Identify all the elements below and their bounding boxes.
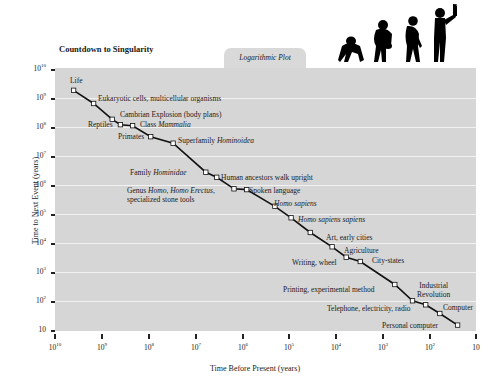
label-hominidae: Family Hominidae: [130, 168, 186, 177]
label-personal-computer: Personal computer: [382, 321, 438, 330]
label-homo-sapiens-sapiens: Homo sapiens sapiens: [298, 215, 365, 224]
data-point-marker: [204, 170, 208, 174]
label-computer: Computer: [443, 303, 473, 312]
data-point-marker: [118, 123, 122, 127]
label-industrial-revolution: IndustrialRevolution: [417, 281, 450, 299]
label-spoken-language: Spoken language: [249, 186, 300, 195]
label-printing: Printing, experimental method: [283, 285, 374, 294]
data-point-marker: [232, 187, 236, 191]
data-point-marker: [438, 311, 442, 315]
data-point-marker: [424, 303, 428, 307]
data-point-marker: [308, 230, 312, 234]
label-agriculture: Agriculture: [344, 246, 379, 255]
data-point-marker: [358, 259, 362, 263]
data-point-marker: [455, 323, 459, 327]
label-eukaryotic: Eukaryotic cells, multicellular organism…: [98, 94, 221, 103]
label-city-states: City-states: [372, 256, 404, 265]
data-point-marker: [393, 282, 397, 286]
data-point-marker: [410, 299, 414, 303]
label-cambrian: Cambrian Explosion (body plans): [120, 110, 221, 119]
label-writing: Writing, wheel: [292, 258, 337, 267]
data-point-marker: [171, 141, 175, 145]
data-point-marker: [130, 124, 134, 128]
data-point-marker: [215, 175, 219, 179]
label-genus-homo: Genus Homo, Homo Erectus,specialized sto…: [127, 186, 215, 204]
data-point-marker: [330, 245, 334, 249]
label-hominoidea: Superfamily Hominoidea: [178, 136, 254, 145]
data-point-marker: [344, 255, 348, 259]
label-reptiles: Reptiles: [88, 120, 113, 129]
label-walk-upright: Human ancestors walk upright: [221, 173, 313, 182]
data-point-marker: [71, 88, 75, 92]
label-life: Life: [70, 76, 83, 85]
label-primates: Primates: [118, 132, 144, 141]
label-homo-sapiens: Homo sapiens: [274, 199, 317, 208]
data-point-marker: [289, 216, 293, 220]
label-telephone: Telephone, electricity, radio: [327, 304, 411, 313]
data-point-marker: [149, 135, 153, 139]
label-art: Art, early cities: [326, 233, 372, 242]
data-point-marker: [91, 101, 95, 105]
label-mammalia: Class Mammalia: [140, 120, 191, 129]
